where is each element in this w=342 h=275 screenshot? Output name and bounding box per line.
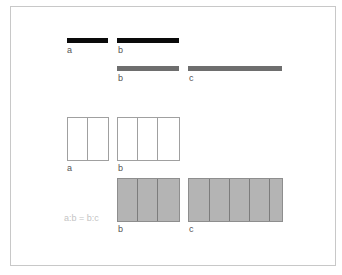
segment-b-label: b <box>118 45 123 55</box>
box-cell <box>138 118 157 160</box>
box-cell <box>210 179 231 221</box>
segment-c-gray-label: c <box>189 73 194 83</box>
box-cell <box>189 179 210 221</box>
box-a-label: a <box>67 163 72 173</box>
box-cell <box>158 179 179 221</box>
box-c-filled <box>188 178 283 222</box>
segment-b-bar <box>117 38 179 43</box>
segment-c-gray-bar <box>188 66 282 71</box>
box-cell <box>88 118 108 160</box>
box-cell <box>158 118 179 160</box>
box-b-filled-label: b <box>118 224 123 234</box>
box-cell <box>118 118 138 160</box>
box-cell <box>138 179 157 221</box>
box-b-label: b <box>118 163 123 173</box>
box-cell <box>118 179 138 221</box>
box-a-outline <box>67 117 109 161</box>
box-cell <box>230 179 250 221</box>
segment-a-label: a <box>67 45 72 55</box>
box-cell <box>68 118 88 160</box>
ratio-text: a:b = b:c <box>64 213 99 223</box>
box-cell <box>250 179 271 221</box>
box-cell <box>270 179 282 221</box>
box-b-filled <box>117 178 180 222</box>
box-c-filled-label: c <box>189 224 194 234</box>
segment-a-bar <box>67 38 108 43</box>
segment-b-gray-bar <box>117 66 179 71</box>
segment-b-gray-label: b <box>118 73 123 83</box>
box-b-outline <box>117 117 180 161</box>
